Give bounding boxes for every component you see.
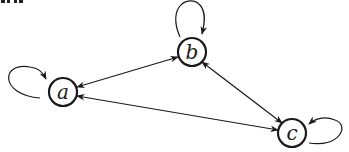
node-a[interactable]: a	[49, 78, 77, 106]
graph-canvas: a b c	[0, 0, 349, 152]
edge-b-c	[202, 62, 282, 123]
edge-c-a	[77, 96, 278, 130]
node-b[interactable]: b	[178, 38, 206, 66]
self-loop-a	[9, 66, 46, 98]
self-loop-b	[176, 1, 205, 37]
self-loop-c	[309, 118, 342, 144]
cropped-text-fragment	[1, 0, 23, 3]
node-b-label: b	[186, 40, 199, 64]
edge-a-b	[77, 57, 178, 87]
node-c-label: c	[286, 121, 297, 145]
node-a-label: a	[57, 80, 69, 104]
node-c[interactable]: c	[278, 119, 306, 147]
